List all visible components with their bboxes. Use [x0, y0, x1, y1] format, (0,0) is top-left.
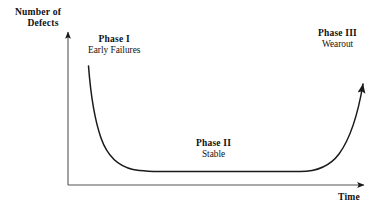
annotation-phase-1-subtitle: Early Failures [88, 45, 140, 56]
y-axis-title: Number of Defects [4, 6, 72, 29]
x-axis-title: Time [338, 191, 360, 202]
annotation-phase-3-title: Phase III [318, 28, 357, 39]
annotation-phase-1: Phase I Early Failures [88, 34, 140, 56]
annotation-phase-1-title: Phase I [88, 34, 140, 45]
annotation-phase-2-title: Phase II [196, 138, 231, 149]
y-axis-title-line-2: Defects [4, 17, 72, 28]
y-axis-title-line-1: Number of [4, 6, 72, 17]
annotation-phase-2: Phase II Stable [196, 138, 231, 160]
figure-canvas: Number of Defects Time Phase I Early Fai… [0, 0, 387, 214]
annotation-phase-3: Phase III Wearout [318, 28, 357, 50]
annotation-phase-3-subtitle: Wearout [318, 39, 357, 50]
annotation-phase-2-subtitle: Stable [196, 149, 231, 160]
